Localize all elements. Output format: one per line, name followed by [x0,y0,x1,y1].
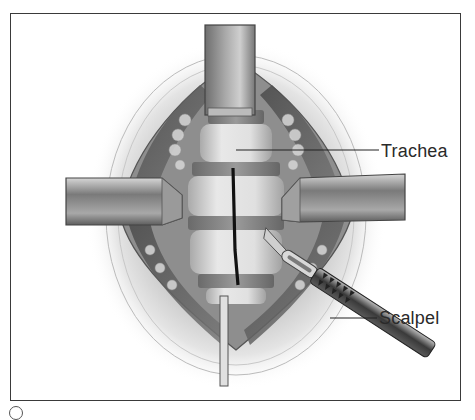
panel-marker-circle [9,406,23,420]
left-retractor [66,178,182,225]
trachea-label: Trachea [381,142,448,160]
right-retractor [282,174,405,222]
trachea [188,110,284,304]
scalpel-label: Scalpel [379,309,439,327]
top-retractor [205,25,255,116]
bottom-hook [220,296,228,386]
